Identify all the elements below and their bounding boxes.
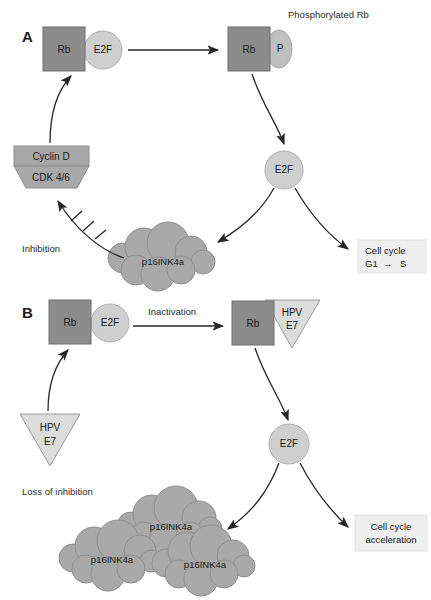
arrow-rb-to-e2f-b xyxy=(255,348,288,420)
pathway-diagram: A Phosphorylated Rb Rb E2F Rb P E2F xyxy=(0,0,431,600)
panel-b-letter: B xyxy=(22,304,33,321)
free-e2f-b-label: E2F xyxy=(280,438,298,449)
hpv-bound-line2: E7 xyxy=(286,320,299,331)
inhibition-label: Inhibition xyxy=(22,243,60,254)
rb-box-b-label: Rb xyxy=(64,317,77,328)
p16-cloud-a-label: p16INK4a xyxy=(142,256,185,267)
cyclin-cdk-complex[interactable]: Cyclin D CDK 4/6 xyxy=(14,146,89,188)
arrow-e2f-to-p16-a xyxy=(218,188,274,242)
outcome-box-b-line1: Cell cycle xyxy=(371,521,412,532)
cyclin-d-label: Cyclin D xyxy=(32,151,69,162)
rb-hpv-complex-b[interactable]: Rb HPV E7 xyxy=(232,300,320,348)
hpv-activator-line2: E7 xyxy=(44,436,57,447)
phosphorylated-rb-caption: Phosphorylated Rb xyxy=(288,9,369,20)
arrow-rb-to-e2f-a xyxy=(252,74,284,144)
arrow-e2f-to-p16-b xyxy=(228,463,279,529)
p16-cloud-b-2-label: p16INK4a xyxy=(91,554,134,565)
p16-cloud-a[interactable]: p16INK4a xyxy=(108,222,215,291)
arrow-e2f-to-outcome-a xyxy=(295,188,348,249)
cdk-label: CDK 4/6 xyxy=(32,172,70,183)
p16-cloud-b-3-label: p16INK4a xyxy=(184,559,227,570)
hpv-e7-activator[interactable]: HPV E7 xyxy=(20,414,80,466)
loss-of-inhibition-label: Loss of inhibition xyxy=(22,486,93,497)
outcome-box-a-line2-arrow: → xyxy=(383,258,393,269)
arrow-cyclin-to-rb xyxy=(50,76,71,143)
figure-canvas: A Phosphorylated Rb Rb E2F Rb P E2F xyxy=(0,0,431,600)
hpv-bound-line1: HPV xyxy=(282,307,303,318)
e2f-circle-a-label: E2F xyxy=(94,44,112,55)
free-e2f-a-label: E2F xyxy=(275,164,293,175)
outcome-box-a-line2-prefix: G1 xyxy=(365,258,378,269)
p16-cloud-b-1-label: p16INK4a xyxy=(150,521,193,532)
outcome-box-b-line2: acceleration xyxy=(365,534,416,545)
arrow-hpv-to-rb xyxy=(48,350,68,411)
free-e2f-b[interactable]: E2F xyxy=(269,424,309,464)
rb-p-complex-a[interactable]: Rb P xyxy=(228,27,292,71)
free-e2f-a[interactable]: E2F xyxy=(265,151,303,189)
inactivation-label: Inactivation xyxy=(148,306,196,317)
rb-box-b2-label: Rb xyxy=(247,318,260,329)
rb-e2f-complex-a[interactable]: Rb E2F xyxy=(43,27,122,71)
panel-a-letter: A xyxy=(22,28,33,45)
e2f-circle-b-label: E2F xyxy=(101,317,119,328)
outcome-box-b[interactable]: Cell cycle acceleration xyxy=(355,515,427,551)
outcome-box-a-line2-suffix: S xyxy=(400,258,406,269)
outcome-box-a[interactable]: Cell cycle G1 → S xyxy=(358,240,426,273)
outcome-box-a-line1: Cell cycle xyxy=(365,245,406,256)
hpv-activator-line1: HPV xyxy=(40,422,61,433)
rb-e2f-complex-b[interactable]: Rb E2F xyxy=(49,300,129,344)
arrow-e2f-to-outcome-b xyxy=(300,463,348,527)
phosphate-label: P xyxy=(277,43,284,54)
rb-box-a2-label: Rb xyxy=(243,44,256,55)
rb-box-a-label: Rb xyxy=(58,44,71,55)
